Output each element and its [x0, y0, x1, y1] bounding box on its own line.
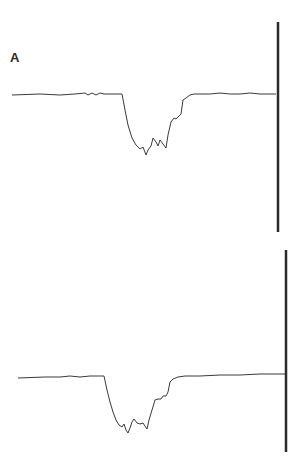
figure-canvas [0, 0, 302, 465]
bottom-spectrum-trace [18, 374, 285, 433]
top-spectrum-trace [12, 93, 276, 155]
